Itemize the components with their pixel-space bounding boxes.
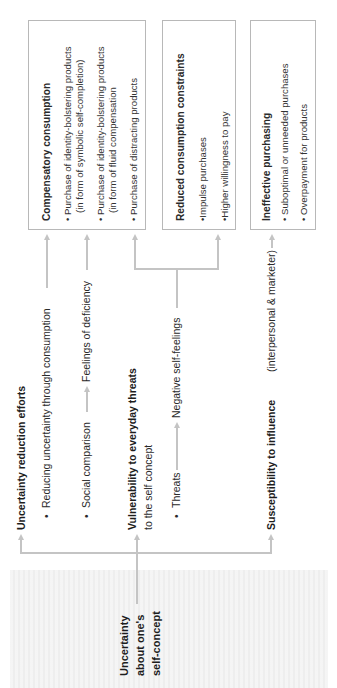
connector bbox=[86, 238, 88, 270]
connector bbox=[86, 390, 88, 412]
arrow-icon bbox=[44, 234, 50, 240]
root-connector bbox=[136, 554, 138, 604]
bullet: • bbox=[40, 514, 52, 518]
outcome-item: (in form of fluid compensation bbox=[107, 87, 118, 213]
branch-connector-1 bbox=[20, 538, 22, 554]
arrow-icon bbox=[18, 534, 24, 540]
outcome-item: • Overpayment for products bbox=[298, 104, 309, 221]
fork-connector bbox=[134, 238, 136, 270]
outcome-title: Ineffective purchasing bbox=[261, 113, 272, 221]
fork-connector bbox=[217, 238, 219, 270]
outcome-item: •Impulse purchases bbox=[197, 137, 208, 221]
branch-subtitle: to the self concept bbox=[142, 445, 154, 530]
outcome-item: (in form of symbolic self-completion) bbox=[74, 59, 85, 213]
arrow-icon bbox=[132, 234, 138, 240]
outcome-box-compensatory: Compensatory consumption • Purchase of i… bbox=[28, 20, 146, 230]
branch-suffix: (interpersonal & marketer) bbox=[265, 250, 277, 372]
branch-bracket bbox=[20, 553, 271, 555]
connector bbox=[176, 426, 178, 470]
arrow-icon bbox=[134, 534, 140, 540]
arrow-icon bbox=[268, 534, 274, 540]
outcome-box-reduced-constraints: Reduced consumption constraints •Impulse… bbox=[162, 20, 236, 230]
outcome-item: • Purchase of identity-bolstering produc… bbox=[95, 46, 106, 221]
connector bbox=[176, 270, 178, 308]
outcome-title: Reduced consumption constraints bbox=[175, 53, 186, 221]
background-texture bbox=[10, 570, 328, 688]
outcome-item: •Higher willingness to pay bbox=[219, 112, 230, 221]
arrow-icon bbox=[174, 422, 180, 428]
bullet-social-comparison: Social comparison bbox=[80, 422, 92, 508]
outcome-item: • Purchase of identity-bolstering produc… bbox=[62, 46, 73, 221]
arrow-icon bbox=[269, 234, 275, 240]
outcome-item: • Suboptimal or unneeded purchases bbox=[279, 63, 290, 221]
outcome-title: Compensatory consumption bbox=[41, 83, 52, 221]
arrow-icon bbox=[84, 234, 90, 240]
arrow-icon bbox=[84, 386, 90, 392]
arrow-icon bbox=[215, 234, 221, 240]
branch-title-vulnerability: Vulnerability to everyday threats bbox=[126, 368, 138, 530]
outcome-box-ineffective: Ineffective purchasing • Suboptimal or u… bbox=[250, 20, 316, 230]
fork-bracket bbox=[134, 269, 218, 271]
branch-connector-3 bbox=[270, 538, 272, 554]
branch-connector-2 bbox=[136, 538, 138, 554]
diagram-canvas: Uncertainty about one's self-concept Unc… bbox=[0, 0, 337, 688]
bullet: • bbox=[80, 514, 92, 518]
bullet-threats: Threats bbox=[170, 472, 182, 508]
connector bbox=[46, 238, 48, 288]
branch-title-susceptibility: Susceptibility to influence bbox=[265, 400, 277, 530]
feelings-of-deficiency: Feelings of deficiency bbox=[80, 281, 92, 382]
branch-title-uncertainty-reduction: Uncertainty reduction efforts bbox=[15, 386, 27, 530]
negative-self-feelings: Negative self-feelings bbox=[170, 318, 182, 418]
root-node-line2: about one's bbox=[134, 615, 146, 676]
bullet-reducing-uncertainty: Reducing uncertainty through consumption bbox=[40, 308, 52, 508]
bullet: • bbox=[170, 514, 182, 518]
outcome-item: • Purchase of distracting products bbox=[128, 78, 139, 221]
root-node-line3: self-concept bbox=[150, 611, 162, 676]
root-node-line1: Uncertainty bbox=[118, 615, 130, 676]
